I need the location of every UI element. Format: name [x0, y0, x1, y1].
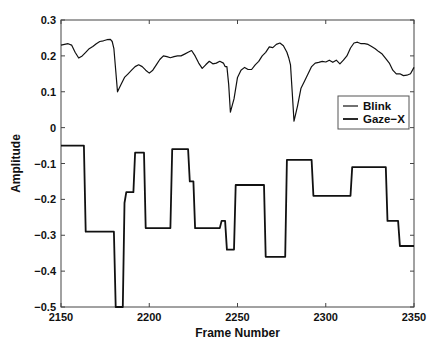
legend-label-blink: Blink: [363, 100, 392, 112]
legend-label-gaze-x: Gaze−X: [363, 113, 405, 125]
y-tick-label: 0.2: [41, 50, 56, 62]
x-tick-label: 2350: [402, 311, 426, 323]
y-tick-label: 0.1: [41, 86, 56, 98]
y-axis-label: Amplitude: [9, 134, 23, 193]
y-tick-label: −0.3: [34, 229, 56, 241]
y-tick-label: 0: [50, 122, 56, 134]
x-tick-label: 2200: [137, 311, 161, 323]
y-tick-label: −0.5: [34, 301, 56, 313]
x-tick-label: 2300: [314, 311, 338, 323]
series-line-gaze-x: [61, 146, 414, 307]
data-series: [61, 39, 414, 307]
x-tick-label: 2250: [225, 311, 249, 323]
y-tick-label: 0.3: [41, 14, 56, 26]
amplitude-chart: 21502200225023002350−0.5−0.4−0.3−0.2−0.1…: [0, 0, 438, 352]
y-tick-label: −0.4: [34, 265, 57, 277]
tick-labels: 21502200225023002350−0.5−0.4−0.3−0.2−0.1…: [34, 14, 426, 323]
legend: Blink Gaze−X: [338, 96, 409, 129]
y-tick-label: −0.1: [34, 158, 56, 170]
y-tick-label: −0.2: [34, 193, 56, 205]
x-axis-label: Frame Number: [195, 326, 280, 340]
